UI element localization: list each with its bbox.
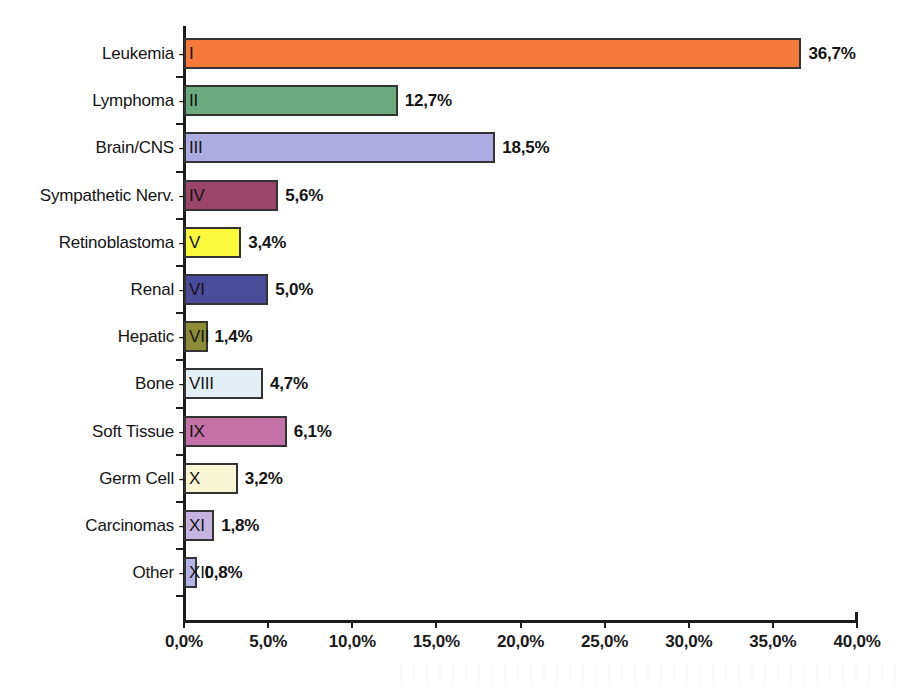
value-tick-label: 40,0% bbox=[833, 632, 880, 652]
category-roman-numeral: I bbox=[189, 42, 194, 66]
bar-chart: 0,0%5,0%10,0%15,0%20,0%25,0%30,0%35,0%40… bbox=[0, 0, 912, 692]
category-label: Brain/CNS - bbox=[96, 136, 185, 160]
value-tick bbox=[435, 620, 437, 628]
category-roman-numeral: III bbox=[189, 136, 203, 160]
category-roman-numeral: X bbox=[189, 467, 200, 491]
category-tick bbox=[176, 454, 184, 456]
category-roman-numeral: IX bbox=[189, 420, 205, 444]
bar-leukemia[interactable] bbox=[184, 38, 801, 69]
bar-row: Brain/CNS -III18,5% bbox=[0, 132, 912, 164]
bar-value-label: 0,8% bbox=[204, 561, 242, 585]
bar-value-label: 4,7% bbox=[270, 372, 308, 396]
value-tick-label: 35,0% bbox=[749, 632, 796, 652]
category-tick bbox=[176, 359, 184, 361]
category-tick bbox=[176, 218, 184, 220]
bar-value-label: 36,7% bbox=[808, 42, 855, 66]
bar-value-label: 5,0% bbox=[275, 278, 313, 302]
bar-value-label: 5,6% bbox=[285, 184, 323, 208]
category-roman-numeral: V bbox=[189, 231, 200, 255]
category-roman-numeral: IV bbox=[189, 184, 205, 208]
category-roman-numeral: XII bbox=[189, 561, 209, 585]
bar-row: Other -XII0,8% bbox=[0, 557, 912, 589]
bar-value-label: 1,4% bbox=[215, 325, 253, 349]
bar-row: Retinoblastoma -V3,4% bbox=[0, 227, 912, 259]
category-tick bbox=[176, 501, 184, 503]
value-tick bbox=[772, 620, 774, 628]
category-roman-numeral: VIII bbox=[189, 372, 214, 396]
category-label: Lymphoma - bbox=[92, 89, 184, 113]
value-tick bbox=[351, 620, 353, 628]
category-label: Carcinomas - bbox=[85, 514, 184, 538]
value-tick-label: 25,0% bbox=[581, 632, 628, 652]
category-label: Germ Cell - bbox=[99, 467, 184, 491]
value-tick bbox=[520, 620, 522, 628]
bar-row: Hepatic -VII1,4% bbox=[0, 321, 912, 353]
value-tick bbox=[688, 620, 690, 628]
category-tick bbox=[176, 123, 184, 125]
category-label: Retinoblastoma - bbox=[59, 231, 184, 255]
value-tick bbox=[267, 620, 269, 628]
category-tick bbox=[176, 595, 184, 597]
bar-value-label: 1,8% bbox=[221, 514, 259, 538]
category-roman-numeral: VI bbox=[189, 278, 205, 302]
bar-value-label: 3,4% bbox=[248, 231, 286, 255]
category-tick bbox=[176, 265, 184, 267]
category-label: Sympathetic Nerv. - bbox=[40, 184, 184, 208]
category-label: Renal - bbox=[131, 278, 184, 302]
bar-row: Leukemia -I36,7% bbox=[0, 38, 912, 70]
category-tick bbox=[176, 76, 184, 78]
category-label: Soft Tissue - bbox=[92, 420, 184, 444]
bar-row: Carcinomas -XI1,8% bbox=[0, 510, 912, 542]
value-tick bbox=[183, 620, 185, 628]
bar-lymphoma[interactable] bbox=[184, 85, 398, 116]
value-tick-label: 30,0% bbox=[665, 632, 712, 652]
value-tick-label: 20,0% bbox=[497, 632, 544, 652]
bar-row: Germ Cell -X3,2% bbox=[0, 463, 912, 495]
bar-row: Bone -VIII4,7% bbox=[0, 368, 912, 400]
value-tick-label: 15,0% bbox=[413, 632, 460, 652]
category-label: Leukemia - bbox=[102, 42, 184, 66]
bar-row: Soft Tissue -IX6,1% bbox=[0, 416, 912, 448]
bar-value-label: 12,7% bbox=[405, 89, 452, 113]
category-label: Other - bbox=[132, 561, 184, 585]
bar-row: Renal -VI5,0% bbox=[0, 274, 912, 306]
category-roman-numeral: XI bbox=[189, 514, 205, 538]
value-tick-label: 10,0% bbox=[329, 632, 376, 652]
category-roman-numeral: VII bbox=[189, 325, 209, 349]
category-label: Bone - bbox=[135, 372, 184, 396]
category-tick bbox=[176, 171, 184, 173]
bar-brain-cns[interactable] bbox=[184, 132, 495, 163]
scan-artifact bbox=[400, 662, 900, 684]
category-label: Hepatic - bbox=[118, 325, 184, 349]
value-tick bbox=[604, 620, 606, 628]
bar-value-label: 18,5% bbox=[502, 136, 549, 160]
bar-row: Lymphoma -II12,7% bbox=[0, 85, 912, 117]
category-roman-numeral: II bbox=[189, 89, 198, 113]
category-tick bbox=[176, 548, 184, 550]
category-tick bbox=[176, 312, 184, 314]
bar-value-label: 6,1% bbox=[294, 420, 332, 444]
value-tick-label: 5,0% bbox=[249, 632, 287, 652]
bar-value-label: 3,2% bbox=[245, 467, 283, 491]
category-tick bbox=[176, 407, 184, 409]
value-tick bbox=[856, 620, 858, 628]
value-tick-label: 0,0% bbox=[165, 632, 203, 652]
bar-row: Sympathetic Nerv. -IV5,6% bbox=[0, 180, 912, 212]
